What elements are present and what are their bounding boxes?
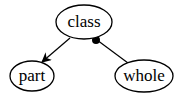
node-class[interactable]: class	[56, 5, 112, 39]
node-whole-label: whole	[123, 66, 165, 85]
node-class-label: class	[67, 12, 100, 31]
edge-class-to-part	[42, 38, 70, 62]
edge-whole-to-class	[97, 40, 128, 63]
node-part[interactable]: part	[10, 61, 54, 91]
node-whole[interactable]: whole	[115, 60, 173, 92]
node-part-label: part	[19, 66, 46, 85]
diagram-canvas: class part whole	[0, 0, 181, 100]
